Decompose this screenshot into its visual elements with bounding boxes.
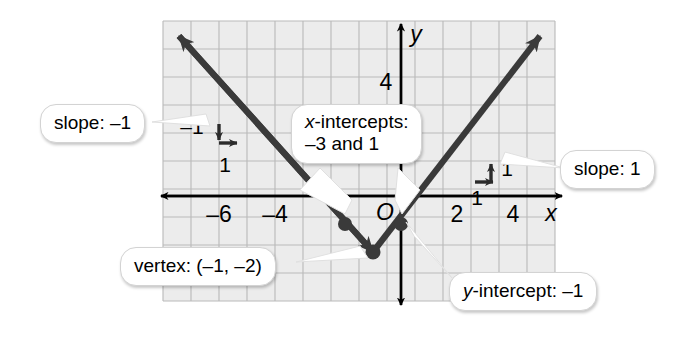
point-x-intercept-1 <box>394 217 408 231</box>
slope-left-run-label: 1 <box>219 153 231 176</box>
x-tick-2: 2 <box>451 201 464 227</box>
callout-x-intercepts-rest: -intercepts: <box>315 111 409 132</box>
x-tick-neg4: –4 <box>262 201 288 227</box>
origin-label: O <box>376 199 394 225</box>
callout-vertex: vertex: (–1, –2) <box>120 247 276 286</box>
y-tick-4: 4 <box>380 69 393 95</box>
x-tick-4: 4 <box>507 201 520 227</box>
callout-x-intercepts-variable: x <box>305 111 315 132</box>
slope-right-run-label: 1 <box>471 186 483 209</box>
callout-x-intercepts-line2: –3 and 1 <box>305 133 408 155</box>
callout-y-intercept-rest: -intercept: –1 <box>473 280 584 301</box>
x-tick-neg6: –6 <box>206 201 232 227</box>
x-axis-title: x <box>544 200 558 226</box>
point-x-intercept-neg3 <box>338 217 352 231</box>
callout-x-intercepts-line1: x-intercepts: <box>305 111 408 133</box>
callout-slope-right-text: slope: 1 <box>574 158 641 179</box>
callout-x-intercepts: x-intercepts: –3 and 1 <box>291 104 422 164</box>
callout-slope-left-text: slope: –1 <box>54 112 131 133</box>
figure-container: –1 1 1 1 –6 –4 2 4 4 O x y <box>0 0 698 344</box>
callout-vertex-text: vertex: (–1, –2) <box>134 255 262 276</box>
callout-y-intercept-variable: y <box>463 280 473 301</box>
callout-y-intercept: y-intercept: –1 <box>449 272 597 311</box>
callout-slope-left: slope: –1 <box>40 104 145 143</box>
y-axis-title: y <box>408 21 423 47</box>
callout-slope-right: slope: 1 <box>560 150 655 189</box>
